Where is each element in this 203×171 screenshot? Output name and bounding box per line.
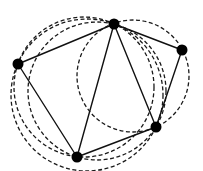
circumcircle-l-t-br xyxy=(11,19,163,171)
point-r xyxy=(177,45,188,56)
edge-l-t xyxy=(18,24,114,64)
triangulation-edges xyxy=(18,24,182,157)
point-t xyxy=(109,19,120,30)
circumcircle-t-r-br xyxy=(77,20,189,132)
point-l xyxy=(13,59,24,70)
edge-t-r xyxy=(114,24,182,50)
point-br xyxy=(151,122,162,133)
edge-b-br xyxy=(77,127,156,157)
edge-t-b xyxy=(77,24,114,157)
edge-l-b xyxy=(18,64,77,157)
point-b xyxy=(72,152,83,163)
triangulation-diagram xyxy=(0,0,203,171)
edge-r-br xyxy=(156,50,182,127)
circumcircle-t-b-br xyxy=(28,22,166,160)
